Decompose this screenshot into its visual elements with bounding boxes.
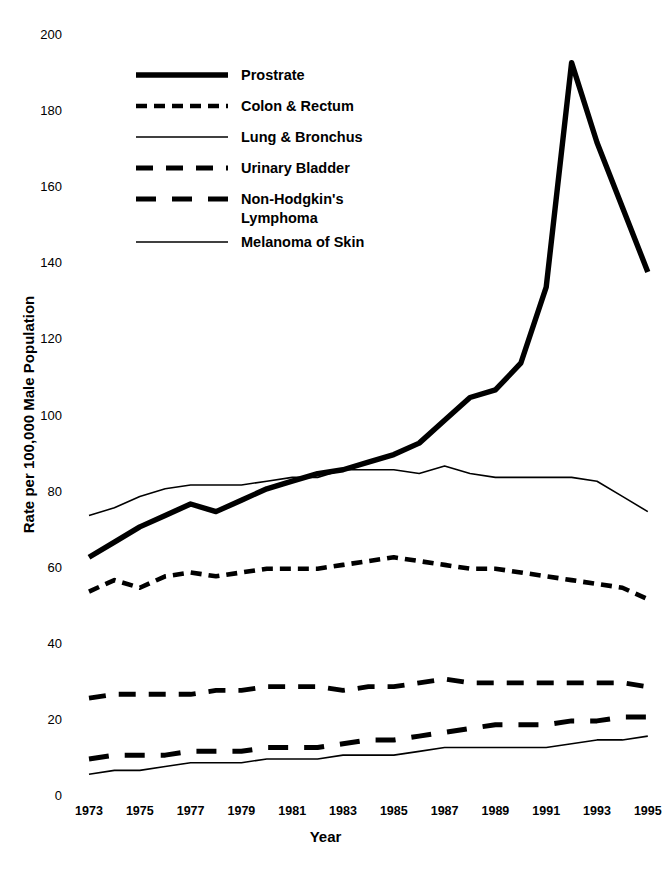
x-tick-label: 1983 [321,804,365,818]
x-tick-label: 1979 [219,804,263,818]
legend-swatch-dashed-medium-icon [135,159,229,189]
x-tick-label: 1981 [270,804,314,818]
y-tick-label: 20 [20,712,62,727]
legend-item: Melanoma of Skin [135,233,435,263]
x-tick-label: 1993 [575,804,619,818]
x-tick-label: 1995 [626,804,666,818]
legend-swatch-solid-thick-icon [135,66,229,96]
x-tick-label: 1987 [423,804,467,818]
x-tick-label: 1989 [473,804,517,818]
legend-swatch-dashed-wide-icon [135,190,229,220]
x-tick-label: 1991 [524,804,568,818]
legend-item: Non-Hodgkin's Lymphoma [135,190,435,220]
y-tick-label: 140 [20,255,62,270]
legend-item: Urinary Bladder [135,159,435,189]
series-line-non-hodgkin-s-lymphoma [89,717,648,759]
series-line-urinary-bladder [89,679,648,698]
legend-label: Prostrate [241,66,305,85]
legend-label: Colon & Rectum [241,97,354,116]
legend-item: Colon & Rectum [135,97,435,127]
y-tick-label: 180 [20,103,62,118]
legend-item: Lung & Bronchus [135,128,435,158]
legend-item: Prostrate [135,66,435,96]
y-tick-label: 40 [20,636,62,651]
x-tick-label: 1975 [118,804,162,818]
y-axis-title: Rate per 100,000 Male Population [20,285,37,545]
legend-swatch-solid-thin-icon [135,128,229,158]
y-tick-label: 60 [20,560,62,575]
legend-label: Lung & Bronchus [241,128,363,147]
legend-label: Urinary Bladder [241,159,350,178]
legend-label: Non-Hodgkin's Lymphoma [241,190,344,228]
series-line-colon-rectum [89,557,648,599]
x-axis-title: Year [0,828,651,845]
x-tick-label: 1985 [372,804,416,818]
y-tick-label: 160 [20,179,62,194]
y-tick-label: 200 [20,27,62,42]
x-tick-label: 1977 [169,804,213,818]
legend-label: Melanoma of Skin [241,233,364,252]
series-line-lung-bronchus [89,466,648,515]
y-tick-label: 0 [20,788,62,803]
x-tick-label: 1973 [67,804,111,818]
legend-swatch-dashed-fine-icon [135,97,229,127]
legend-swatch-solid-thin-icon [135,233,229,263]
